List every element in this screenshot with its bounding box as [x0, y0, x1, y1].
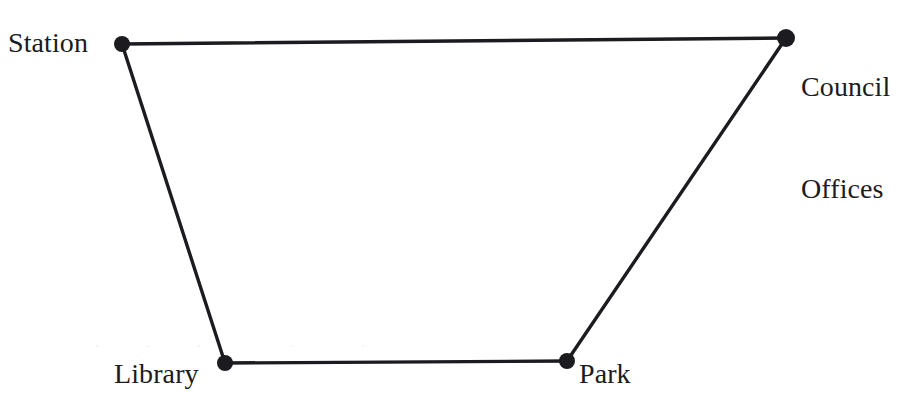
- edge-park-council: [567, 38, 786, 361]
- network-diagram: . . . . . Station Council Offices Librar…: [0, 0, 913, 406]
- node-label-council-offices: Council Offices: [801, 2, 890, 274]
- node-label-station: Station: [8, 26, 88, 59]
- graph-canvas: [0, 0, 913, 406]
- node-park-dot[interactable]: [559, 353, 575, 369]
- node-label-council-line1: Council: [801, 70, 890, 104]
- edge-station-library: [122, 44, 225, 363]
- node-label-library: Library: [114, 357, 199, 390]
- node-label-park: Park: [579, 357, 631, 390]
- edge-station-council: [122, 38, 786, 44]
- node-label-council-line2: Offices: [801, 172, 890, 206]
- edge-library-park: [225, 361, 567, 363]
- node-council-dot[interactable]: [777, 29, 795, 47]
- node-library-dot[interactable]: [217, 355, 233, 371]
- node-station-dot[interactable]: [114, 36, 130, 52]
